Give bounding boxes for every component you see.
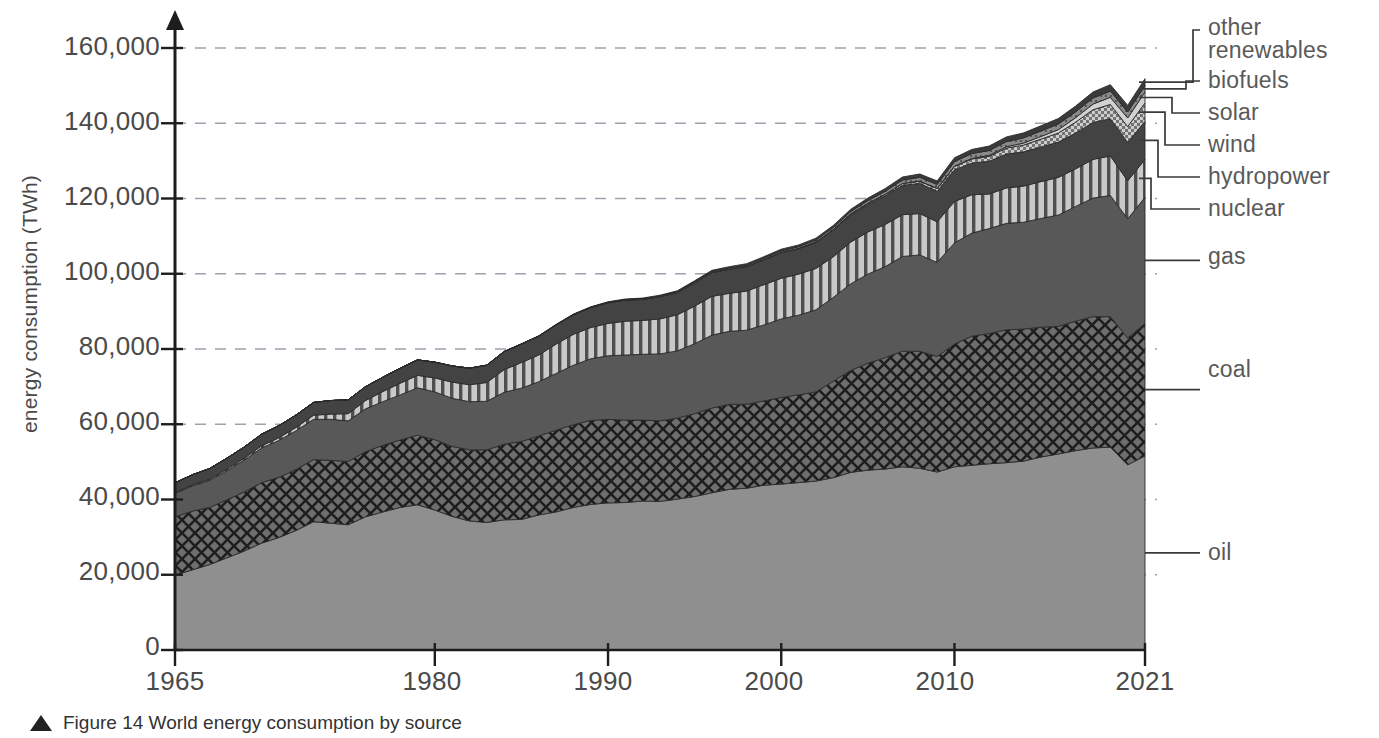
legend-label-wind: wind	[1208, 133, 1256, 156]
legend-text-line2: renewables	[1208, 37, 1328, 63]
figure-caption-text: Figure 14 World energy consumption by so…	[63, 712, 462, 733]
figure-container: energy consumption (TWh) 160,000 140,000…	[0, 0, 1379, 738]
stacked-area-plot	[0, 0, 1379, 738]
triangle-up-icon	[30, 715, 52, 731]
legend-label-other-renewables: other renewables	[1208, 16, 1328, 63]
legend-label-nuclear: nuclear	[1208, 197, 1285, 220]
legend-leader-lines	[1139, 30, 1200, 553]
legend-label-hydropower: hydropower	[1208, 165, 1330, 188]
legend-label-coal: coal	[1208, 358, 1251, 381]
legend-text-line1: other	[1208, 14, 1261, 40]
legend-label-biofuels: biofuels	[1208, 69, 1289, 92]
figure-caption: Figure 14 World energy consumption by so…	[30, 712, 462, 734]
area-series-group	[175, 79, 1145, 650]
leader-line-solar	[1139, 97, 1200, 113]
legend-label-oil: oil	[1208, 541, 1232, 564]
leader-line-nuclear	[1139, 178, 1200, 209]
legend-label-solar: solar	[1208, 101, 1259, 124]
leader-line-other-renewables	[1139, 30, 1200, 82]
legend-label-gas: gas	[1208, 245, 1246, 268]
leader-line-hydropower	[1139, 140, 1200, 177]
